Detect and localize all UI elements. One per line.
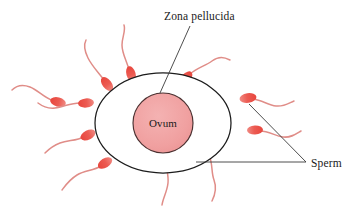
fertilization-diagram: Ovum Zona pellucida Sperm — [0, 0, 359, 220]
sperm-label: Sperm — [311, 157, 342, 170]
sperm-cell — [62, 155, 114, 190]
sperm-cell — [85, 40, 116, 93]
sperm-cell — [45, 127, 97, 153]
sperm-cell — [38, 98, 94, 109]
sperm-cell — [247, 125, 301, 137]
ovum-label: Ovum — [149, 117, 177, 129]
sperm-cell — [122, 25, 138, 83]
sperm-cell — [12, 86, 67, 109]
zona-pellucida-label: Zona pellucida — [164, 10, 235, 23]
diagram-canvas: Ovum Zona pellucida Sperm — [0, 0, 359, 220]
sperm-cell — [239, 92, 294, 106]
